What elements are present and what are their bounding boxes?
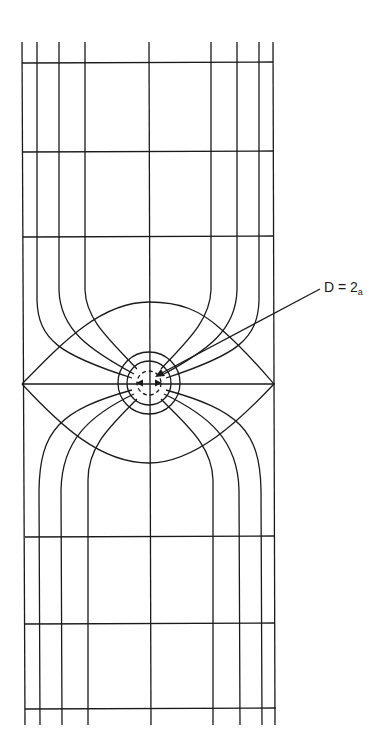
diameter-arrows bbox=[136, 380, 162, 387]
field-diagram bbox=[0, 0, 389, 755]
field-lines-upper-left bbox=[37, 42, 137, 378]
left-arrowhead-icon bbox=[136, 380, 143, 387]
diameter-label: D = 2a bbox=[324, 279, 363, 297]
middle-circle bbox=[127, 361, 171, 405]
field-lines-lower-left bbox=[39, 390, 137, 725]
lens-equipotential bbox=[22, 302, 274, 463]
label-leader bbox=[155, 289, 320, 377]
inclusion bbox=[118, 352, 180, 414]
field-lines-upper-right bbox=[161, 42, 259, 378]
